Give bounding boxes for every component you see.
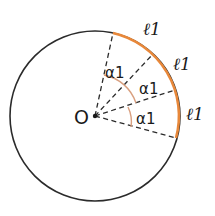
angle-label-3: α1 <box>136 110 155 128</box>
arc-label-3: ℓ1 <box>186 104 204 124</box>
angle-label-2: α1 <box>139 80 158 98</box>
arc-label-2: ℓ1 <box>173 54 191 74</box>
center-label: O <box>74 106 89 128</box>
angle-label-1: α1 <box>105 64 124 82</box>
arc-label-1: ℓ1 <box>143 19 161 39</box>
circle-diagram: O α1 α1 α1 ℓ1 ℓ1 ℓ1 <box>0 0 215 216</box>
angle-mark-inner <box>128 107 131 127</box>
center-point <box>93 114 97 118</box>
